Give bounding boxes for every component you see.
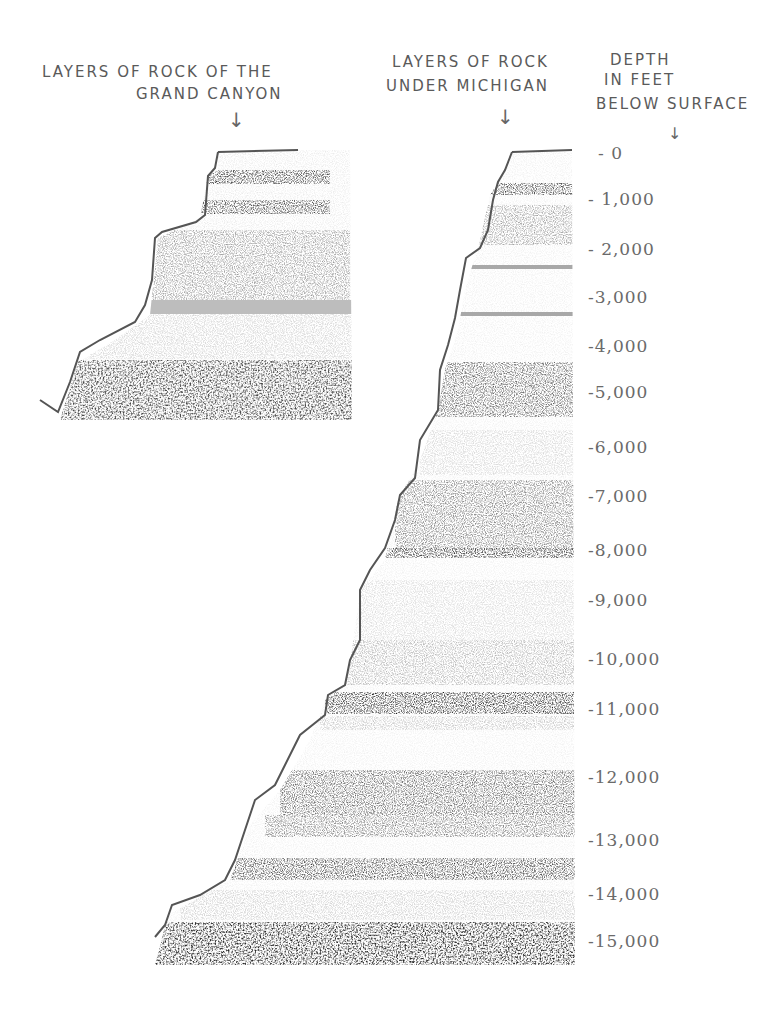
depth-label-line1: DEPTH (610, 50, 749, 70)
rock-layers-illustration (0, 0, 768, 1028)
depth-tick: -15,000 (588, 931, 660, 951)
depth-tick: -4,000 (588, 336, 648, 356)
depth-tick: -3,000 (588, 287, 648, 307)
depth-tick: - 1,000 (588, 189, 655, 209)
depth-arrow-icon: ↓ (668, 124, 681, 143)
michigan-label-line2: UNDER MICHIGAN (386, 76, 549, 96)
depth-tick: - 0 (598, 143, 623, 163)
depth-tick: -9,000 (588, 590, 648, 610)
depth-tick: -6,000 (588, 437, 648, 457)
depth-tick: -12,000 (588, 767, 660, 787)
depth-tick: -14,000 (588, 884, 660, 904)
depth-tick: - 2,000 (588, 239, 655, 259)
depth-tick: -5,000 (588, 382, 648, 402)
grand-canyon-arrow-icon: ↓ (228, 108, 245, 132)
depth-tick: -8,000 (588, 540, 648, 560)
depth-tick: -11,000 (588, 699, 660, 719)
grand-canyon-label-line1: LAYERS OF ROCK OF THE (42, 62, 283, 82)
depth-label-line3: BELOW SURFACE (596, 94, 749, 114)
grand-canyon-label-line2: GRAND CANYON (136, 84, 283, 104)
michigan-label-line1: LAYERS OF ROCK (392, 52, 549, 72)
depth-tick: -10,000 (588, 649, 660, 669)
michigan-arrow-icon: ↓ (497, 105, 514, 129)
grand-canyon-label: LAYERS OF ROCK OF THE GRAND CANYON (42, 62, 283, 104)
depth-tick: -13,000 (588, 830, 660, 850)
michigan-label: LAYERS OF ROCK UNDER MICHIGAN (386, 52, 549, 96)
depth-label: DEPTH IN FEET BELOW SURFACE (596, 50, 749, 114)
depth-tick: -7,000 (588, 486, 648, 506)
depth-label-line2: IN FEET (604, 70, 749, 90)
grand-canyon-rock-column (40, 145, 360, 425)
